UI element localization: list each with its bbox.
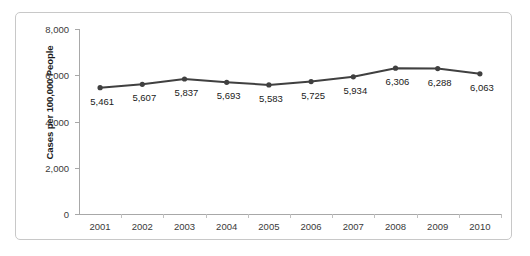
data-point-marker bbox=[351, 74, 356, 79]
x-tick-label: 2010 bbox=[455, 221, 505, 232]
data-point-marker bbox=[140, 82, 145, 87]
data-point-marker bbox=[435, 66, 440, 71]
x-tick-mark bbox=[163, 214, 164, 218]
data-point-marker bbox=[477, 71, 482, 76]
x-tick-mark bbox=[374, 214, 375, 218]
x-tick-mark bbox=[332, 214, 333, 218]
x-tick-mark bbox=[459, 214, 460, 218]
y-tick-mark bbox=[75, 214, 79, 215]
x-tick-mark bbox=[206, 214, 207, 218]
y-tick-mark bbox=[75, 29, 79, 30]
y-tick-mark bbox=[75, 168, 79, 169]
x-tick-mark bbox=[417, 214, 418, 218]
data-point-marker bbox=[224, 80, 229, 85]
data-point-label: 5,461 bbox=[90, 96, 114, 107]
data-point-label: 5,934 bbox=[343, 85, 367, 96]
data-point-label: 5,725 bbox=[301, 90, 325, 101]
data-point-marker bbox=[309, 79, 314, 84]
x-tick-mark bbox=[248, 214, 249, 218]
data-point-label: 6,306 bbox=[386, 76, 410, 87]
x-tick-mark bbox=[290, 214, 291, 218]
data-point-label: 5,693 bbox=[217, 90, 241, 101]
line-series-plot bbox=[16, 13, 513, 241]
y-tick-mark bbox=[75, 122, 79, 123]
data-point-label: 5,607 bbox=[132, 92, 156, 103]
data-point-label: 6,063 bbox=[470, 82, 494, 93]
data-point-marker bbox=[182, 76, 187, 81]
data-point-marker bbox=[393, 66, 398, 71]
x-tick-mark bbox=[501, 214, 502, 218]
series-line bbox=[100, 68, 480, 88]
data-point-label: 5,837 bbox=[175, 87, 199, 98]
data-point-label: 5,583 bbox=[259, 93, 283, 104]
data-point-marker bbox=[266, 82, 271, 87]
data-point-label: 6,288 bbox=[428, 77, 452, 88]
x-tick-mark bbox=[121, 214, 122, 218]
data-point-marker bbox=[98, 85, 103, 90]
chart-container: Cases per 100,000 People 02,0004,0006,00… bbox=[15, 12, 512, 240]
y-tick-mark bbox=[75, 75, 79, 76]
